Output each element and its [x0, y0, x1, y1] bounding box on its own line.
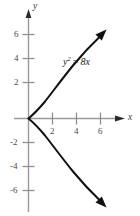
y-tick-label-neg6: -6: [10, 186, 18, 195]
y-tick-label-neg4: -4: [10, 162, 18, 171]
parabola-figure: y x 2 4 6 6 4 2 -2 -4 -6 y2 = 8x: [0, 0, 140, 216]
y-tick-label-2: 2: [14, 78, 19, 87]
equation-exponent: 2: [67, 55, 70, 62]
x-tick-label-6: 6: [98, 127, 103, 136]
x-axis-label: x: [128, 113, 132, 123]
x-tick-label-2: 2: [50, 127, 55, 136]
y-tick-label-neg2: -2: [10, 138, 18, 147]
x-tick-label-4: 4: [74, 127, 79, 136]
y-tick-label-4: 4: [14, 54, 19, 63]
y-tick-label-6: 6: [14, 30, 19, 39]
x-axis-arrowhead: [115, 115, 125, 121]
equation-label: y2 = 8x: [63, 56, 90, 67]
y-axis-arrowhead: [26, 9, 32, 18]
equation-right: 8x: [80, 56, 89, 67]
equation-relation: =: [73, 56, 79, 67]
y-axis-label: y: [33, 2, 37, 12]
graph-canvas: [0, 0, 140, 216]
